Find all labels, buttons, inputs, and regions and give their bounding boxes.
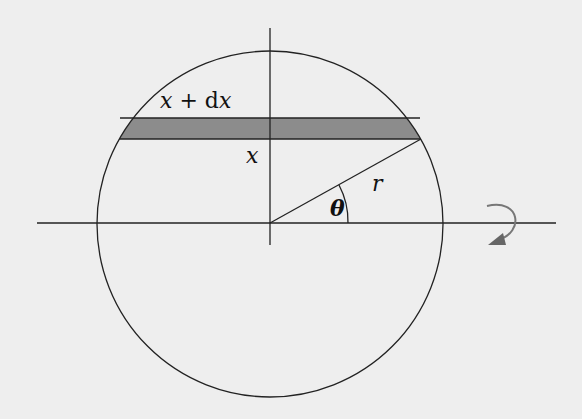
label-x: x (246, 143, 259, 168)
rotation-arrowhead-icon (488, 233, 506, 245)
label-x-plus-dx: x + dx (160, 88, 232, 113)
label-theta: θ (330, 195, 345, 221)
label-r: r (372, 171, 384, 196)
radius-line (270, 139, 421, 223)
sphere-slice-diagram: x + dx x r θ (0, 0, 582, 419)
